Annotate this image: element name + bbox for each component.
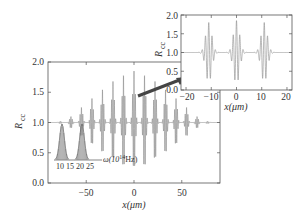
main-xlabel: x(μm) <box>121 199 146 210</box>
inset-xtick-neg10: −10 <box>204 92 219 102</box>
main-xtick-50: 50 <box>177 188 187 198</box>
spectrum-tick-20: 20 <box>76 162 84 171</box>
spectrum-tick-25: 25 <box>86 162 94 171</box>
main-ytick-0.5: 0.5 <box>32 148 44 158</box>
inset-ytick-2.0: 2.0 <box>166 11 178 21</box>
inset-xtick-10: 10 <box>256 92 266 102</box>
main-xtick-0: 0 <box>132 188 137 198</box>
inset-ytick-1.0: 1.0 <box>166 48 178 58</box>
spectrum-tick-15: 15 <box>66 162 74 171</box>
inset-ytick-1.5: 1.5 <box>166 30 178 40</box>
inset-ytick-0.0: 0.0 <box>166 85 178 95</box>
inset-xtick-20: 20 <box>281 92 291 102</box>
inset-ytick-0.5: 0.5 <box>166 67 178 77</box>
inset-xtick-neg20: −20 <box>180 92 195 102</box>
svg-text:R: R <box>13 123 24 130</box>
svg-text:cc: cc <box>18 113 27 121</box>
main-ytick-0.0: 0.0 <box>32 178 44 188</box>
main-ytick-2.0: 2.0 <box>32 57 44 67</box>
main-ytick-1.0: 1.0 <box>32 118 44 128</box>
main-xtick-neg50: −50 <box>79 188 94 198</box>
spectrum-tick-10: 10 <box>56 162 64 171</box>
svg-text:R: R <box>153 51 164 58</box>
svg-text:cc: cc <box>158 41 167 49</box>
inset-xlabel: x(μm) <box>223 101 248 113</box>
chart-canvas: 2.0 1.5 1.0 0.5 0.0 −50 0 50 x(μm) R cc … <box>0 0 308 210</box>
inset-ylabel: R cc <box>153 41 167 58</box>
main-ytick-1.5: 1.5 <box>32 87 44 97</box>
main-ylabel: R cc <box>13 113 27 130</box>
